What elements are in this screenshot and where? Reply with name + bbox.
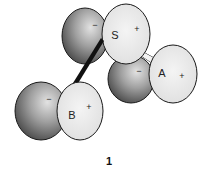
orbital-b-positive-lobe <box>57 82 103 140</box>
orbital-a-label: A <box>158 67 166 79</box>
orbital-a-positive-sign: + <box>179 71 184 81</box>
orbital-s-negative-sign: − <box>92 20 97 30</box>
figure-caption: 1 <box>106 155 112 167</box>
orbital-s-positive-sign: + <box>134 24 139 34</box>
orbital-b-positive-sign: + <box>86 102 91 112</box>
orbital-b-negative-sign: − <box>46 94 51 104</box>
orbital-s <box>62 8 108 64</box>
orbital-a-positive-lobe <box>149 45 197 103</box>
orbital-s-positive-lobe <box>102 4 150 64</box>
orbital-b-label: B <box>68 109 75 121</box>
orbital-s-negative-lobe <box>62 8 108 64</box>
orbital-diagram: − S + − A + − B + 1 <box>0 0 210 169</box>
orbital-a-negative-sign: − <box>136 66 141 76</box>
orbital-s-label: S <box>111 29 118 41</box>
